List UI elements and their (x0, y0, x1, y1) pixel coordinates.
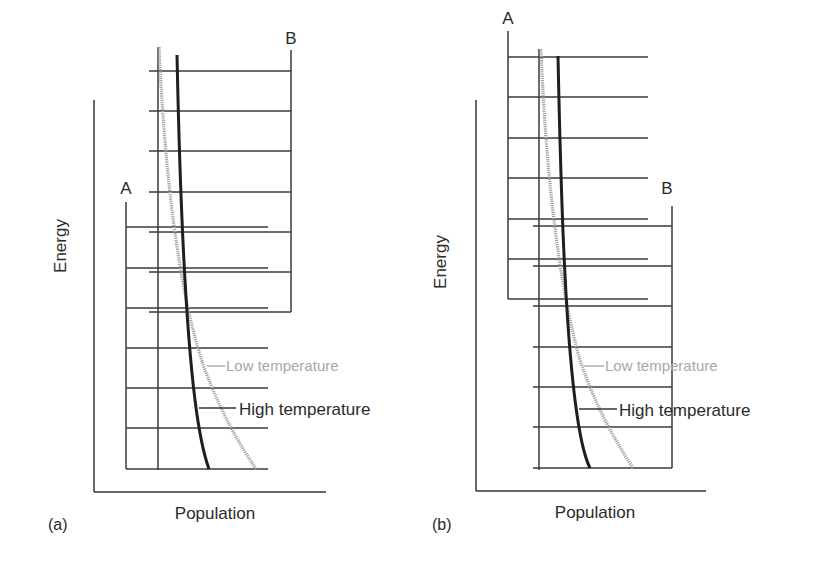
ladder-a-label: A (502, 9, 514, 28)
high-temp-legend: High temperature (619, 401, 750, 420)
high-temperature-curve (558, 56, 590, 468)
y-axis-label: Energy (51, 219, 70, 273)
high-temperature-curve (177, 55, 209, 469)
low-temp-legend: Low temperature (605, 357, 718, 374)
ladder-a-label: A (120, 179, 132, 198)
low-temp-legend: Low temperature (226, 357, 339, 374)
ladder-b-label: B (661, 179, 672, 198)
energy-population-diagram: A B Low temperature High temperature Pop… (0, 0, 831, 567)
y-axis-label: Energy (431, 235, 450, 289)
ladder-b (533, 206, 672, 468)
panel-caption: (b) (432, 516, 452, 533)
panel-b: A B Low temperature High temperature Pop… (431, 9, 750, 533)
ladder-b-label: B (285, 29, 296, 48)
panel-a: A B Low temperature High temperature Pop… (48, 29, 370, 533)
x-axis-label: Population (175, 504, 255, 523)
high-temp-legend: High temperature (239, 400, 370, 419)
panel-caption: (a) (48, 516, 68, 533)
ladder-a (126, 202, 268, 469)
ladder-a (508, 31, 648, 299)
x-axis-label: Population (555, 503, 635, 522)
